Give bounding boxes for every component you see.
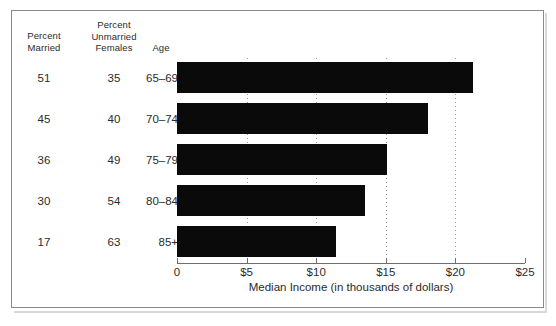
x-axis-tick-label: $5 bbox=[227, 266, 267, 279]
cell-percent-married-4: 17 bbox=[8, 236, 80, 249]
bar bbox=[177, 226, 336, 257]
x-axis-title: Median Income (in thousands of dollars) bbox=[177, 281, 525, 294]
x-axis-tick-label: $20 bbox=[435, 266, 475, 279]
x-axis-tick bbox=[177, 258, 178, 263]
column-header-unmarried-line2: Unmarried bbox=[78, 31, 150, 43]
column-header-percent-married: Percent Married bbox=[8, 30, 80, 53]
cell-age-0: 65–69 bbox=[136, 72, 178, 85]
bar bbox=[177, 185, 365, 216]
x-axis-tick-label: $10 bbox=[296, 266, 336, 279]
x-axis-tick bbox=[386, 258, 387, 263]
bar bbox=[177, 62, 473, 93]
frame-shadow-right bbox=[545, 13, 547, 311]
cell-age-1: 70–74 bbox=[136, 113, 178, 126]
column-header-percent-married-line1: Percent bbox=[8, 30, 80, 42]
x-axis-tick-label: 0 bbox=[157, 266, 197, 279]
chart-figure: Percent Married Percent Unmarried Female… bbox=[0, 0, 556, 326]
x-axis-tick-label: $25 bbox=[505, 266, 545, 279]
cell-percent-married-0: 51 bbox=[8, 72, 80, 85]
cell-percent-married-1: 45 bbox=[8, 113, 80, 126]
frame-shadow-bottom bbox=[14, 311, 547, 313]
x-axis-line bbox=[177, 263, 525, 264]
x-axis-tick bbox=[455, 258, 456, 263]
column-header-unmarried-line1: Percent bbox=[78, 19, 150, 31]
cell-percent-married-3: 30 bbox=[8, 195, 80, 208]
plot-area bbox=[177, 58, 525, 263]
cell-age-3: 80–84 bbox=[136, 195, 178, 208]
cell-age-4: 85+ bbox=[136, 236, 178, 249]
x-axis-tick bbox=[247, 258, 248, 263]
column-header-percent-married-line2: Married bbox=[8, 42, 80, 54]
bar bbox=[177, 144, 387, 175]
cell-percent-married-2: 36 bbox=[8, 154, 80, 167]
bar bbox=[177, 103, 428, 134]
x-axis-tick bbox=[525, 258, 526, 263]
cell-age-2: 75–79 bbox=[136, 154, 178, 167]
x-axis-tick-label: $15 bbox=[366, 266, 406, 279]
column-header-age: Age bbox=[140, 42, 182, 54]
x-axis-tick bbox=[316, 258, 317, 263]
